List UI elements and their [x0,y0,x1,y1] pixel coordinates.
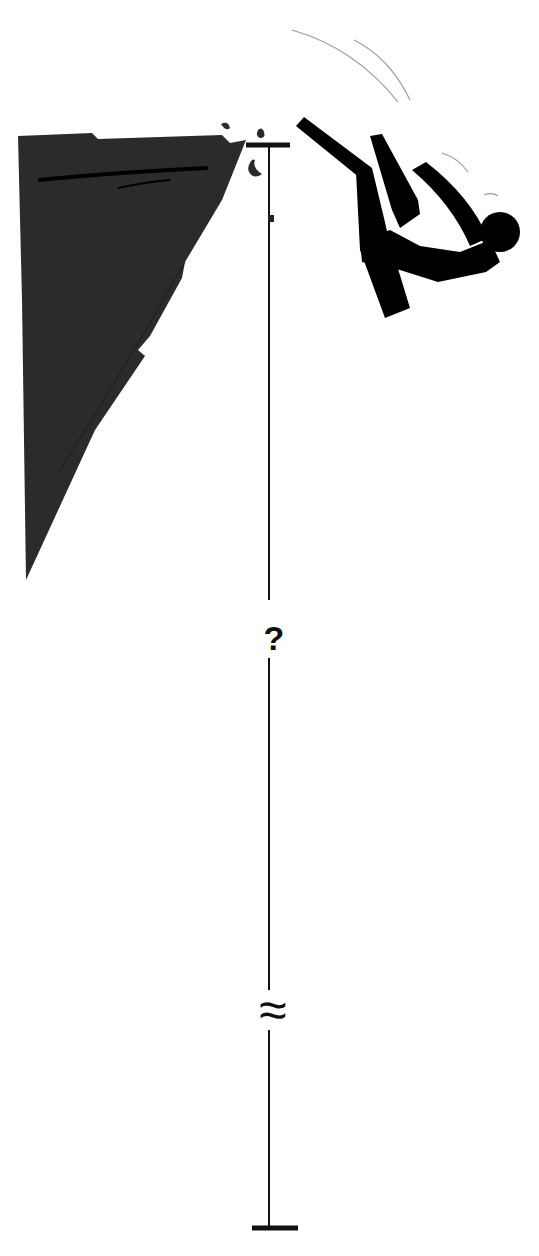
scale-break-symbol: ≈ [246,990,300,1030]
cliff [18,133,246,580]
unknown-height-label: ? [254,618,294,658]
height-measurement-line[interactable] [246,145,298,1228]
falling-person-figure [296,117,520,318]
